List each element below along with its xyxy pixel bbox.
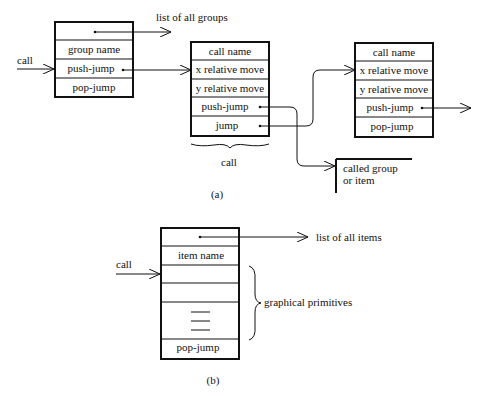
pop-jump-cell: pop-jump — [177, 341, 220, 353]
pop-jump-cell: pop-jump — [371, 120, 414, 132]
call-name-cell: call name — [209, 45, 252, 57]
caption-a: (a) — [211, 188, 224, 201]
group-pop-jump-cell: pop-jump — [73, 81, 116, 93]
y-relative-move-cell: y relative move — [196, 82, 265, 94]
group-name-cell: group name — [68, 43, 120, 55]
call-brace-label: call — [221, 156, 237, 168]
call-brace — [191, 144, 269, 148]
push-jump-cell: push-jump — [366, 101, 414, 113]
push-jump-to-called-arrow — [260, 107, 335, 166]
jump-cell: jump — [215, 119, 239, 131]
push-jump-cell: push-jump — [201, 100, 249, 112]
group-push-jump-cell: push-jump — [67, 62, 115, 74]
list-of-all-groups-label: list of all groups — [156, 11, 228, 23]
caption-b: (b) — [207, 374, 220, 387]
y-relative-move-cell: y relative move — [360, 83, 429, 95]
call-label-a: call — [17, 54, 33, 66]
graphical-primitives-label: graphical primitives — [264, 296, 352, 308]
x-relative-move-cell: x relative move — [360, 64, 429, 76]
item-record-box: item name pop-jump — [161, 228, 239, 359]
list-of-all-items-label: list of all items — [316, 231, 382, 243]
call-record-box-2: call name x relative move y relative mov… — [355, 43, 433, 137]
x-relative-move-cell: x relative move — [196, 63, 265, 75]
item-name-cell: item name — [178, 249, 224, 261]
jump-arrow — [260, 70, 355, 126]
call-name-cell: call name — [373, 46, 416, 58]
diagram-canvas: group name push-jump pop-jump list of al… — [0, 0, 491, 403]
or-item-label: or item — [343, 174, 375, 186]
graphical-primitives-brace — [249, 266, 261, 340]
called-group-label: called group — [343, 162, 398, 174]
called-group-or-item: called group or item — [336, 159, 412, 193]
call-label-b: call — [116, 258, 132, 270]
group-record-box: group name push-jump pop-jump — [55, 22, 133, 97]
call-record-box-1: call name x relative move y relative mov… — [191, 42, 269, 136]
